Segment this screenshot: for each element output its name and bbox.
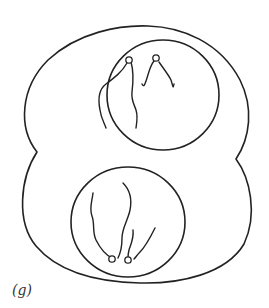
lower-right-filament xyxy=(128,230,133,258)
lower-nucleus xyxy=(71,167,185,277)
upper-nucleus xyxy=(99,40,219,150)
upper-right-knob xyxy=(153,55,159,61)
lower-left-knob xyxy=(109,256,115,262)
cell-division-diagram xyxy=(0,0,269,308)
upper-left-knob xyxy=(126,57,132,63)
lower-left-filament xyxy=(91,193,112,258)
upper-right-filament xyxy=(142,61,154,86)
lower-right-knob xyxy=(125,257,131,263)
outer-cell-outline xyxy=(23,26,252,283)
panel-label: (g) xyxy=(12,282,32,298)
